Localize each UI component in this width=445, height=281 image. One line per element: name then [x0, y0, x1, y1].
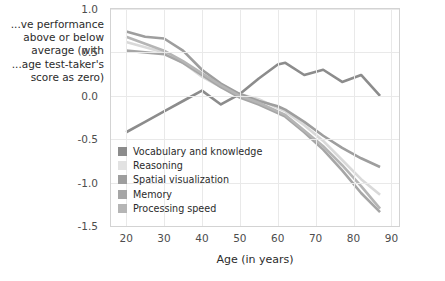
gridline-horizontal	[111, 96, 399, 97]
x-tick-label: 90	[371, 232, 411, 244]
legend-swatch-icon	[118, 204, 127, 213]
legend-swatch-icon	[118, 175, 127, 184]
x-tick-label: 20	[106, 232, 146, 244]
gridline-horizontal	[111, 226, 399, 227]
gridline-vertical	[354, 9, 355, 226]
legend-item: Processing speed	[118, 202, 262, 216]
legend-item: Reasoning	[118, 158, 262, 172]
gridline-horizontal	[111, 9, 399, 10]
y-tick-label: -1.5	[58, 220, 98, 232]
x-tick-label: 80	[334, 232, 374, 244]
y-tick-label: 0.5	[58, 46, 98, 58]
x-tick-label: 60	[258, 232, 298, 244]
legend-swatch-icon	[118, 190, 127, 199]
legend-swatch-icon	[118, 147, 127, 156]
chart-figure: ...ve performance above or below average…	[0, 0, 445, 281]
legend-item: Memory	[118, 187, 262, 201]
gridline-vertical	[278, 9, 279, 226]
y-tick-label: 1.0	[58, 3, 98, 15]
gridline-horizontal	[111, 52, 399, 53]
legend-swatch-icon	[118, 161, 127, 170]
legend-item-label: Spatial visualization	[133, 174, 229, 185]
y-tick-label: -0.5	[58, 133, 98, 145]
y-tick-label: 0.0	[58, 90, 98, 102]
gridline-horizontal	[111, 139, 399, 140]
chart-legend: Vocabulary and knowledgeReasoningSpatial…	[118, 144, 262, 216]
legend-item-label: Vocabulary and knowledge	[133, 146, 262, 157]
gridline-vertical	[391, 9, 392, 226]
gridline-vertical	[316, 9, 317, 226]
legend-item: Vocabulary and knowledge	[118, 144, 262, 158]
legend-item-label: Processing speed	[133, 203, 216, 214]
legend-item-label: Memory	[133, 189, 172, 200]
legend-item: Spatial visualization	[118, 173, 262, 187]
y-tick-label: -1.0	[58, 177, 98, 189]
x-tick-label: 50	[220, 232, 260, 244]
x-tick-label: 40	[182, 232, 222, 244]
x-tick-label: 30	[144, 232, 184, 244]
x-tick-label: 70	[296, 232, 336, 244]
x-axis-label: Age (in years)	[110, 253, 400, 266]
legend-item-label: Reasoning	[133, 160, 183, 171]
